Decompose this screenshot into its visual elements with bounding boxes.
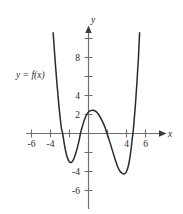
y-tick-label-8: 8: [75, 53, 80, 63]
y-tick-label-2: 2: [75, 110, 80, 120]
x-tick-label-6: 6: [143, 139, 148, 149]
x-tick-label-4: 4: [124, 139, 129, 149]
y-axis-arrow: [85, 26, 91, 34]
x-tick-label--4: -4: [47, 139, 55, 149]
graph-figure: -6 -4 4 6 -6 -4 2 4 8 x y y = f(x): [0, 0, 183, 214]
y-axis-label: y: [90, 15, 96, 25]
y-tick-label-4: 4: [75, 91, 80, 101]
x-axis-arrow: [159, 130, 167, 136]
x-axis-label: x: [167, 129, 173, 139]
y-tick-label--4: -4: [72, 167, 80, 177]
function-annotation-label: y = f(x): [15, 70, 45, 81]
y-tick-label--6: -6: [72, 186, 80, 196]
x-tick-label--6: -6: [28, 139, 36, 149]
function-curve: [53, 33, 139, 174]
graph-canvas: -6 -4 4 6 -6 -4 2 4 8 x y y = f(x): [0, 0, 183, 214]
